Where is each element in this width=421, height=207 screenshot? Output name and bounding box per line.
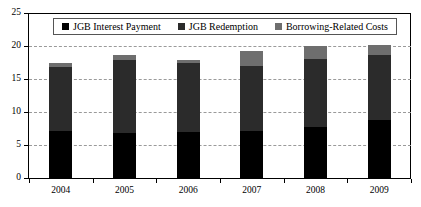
legend-swatch-borrowing-icon <box>275 23 282 30</box>
legend-label-borrowing: Borrowing-Related Costs <box>286 22 388 32</box>
y-tick-mark <box>24 79 29 80</box>
gridline <box>29 46 411 47</box>
y-tick-mark <box>24 46 29 47</box>
y-axis-line <box>28 13 29 179</box>
x-tick-label-2007: 2007 <box>222 186 282 196</box>
bar-2004 <box>49 63 72 178</box>
bar-2009 <box>368 45 391 178</box>
legend-entry-redemption: JGB Redemption <box>178 22 258 32</box>
y-tick-label: 20 <box>0 41 21 51</box>
bar-segment-interest-2004 <box>49 131 72 178</box>
bar-2006 <box>177 60 200 178</box>
bar-segment-borrowing-2007 <box>240 51 263 66</box>
gridline <box>29 79 411 80</box>
y-tick-mark <box>24 13 29 14</box>
x-tick-mark <box>220 179 221 183</box>
legend-label-redemption: JGB Redemption <box>189 22 258 32</box>
stacked-bar-chart: 0510152025 200420052006200720082009 JGB … <box>0 0 421 207</box>
bar-segment-redemption-2007 <box>240 66 263 131</box>
x-tick-mark <box>411 179 412 183</box>
x-tick-label-2005: 2005 <box>95 186 155 196</box>
x-tick-label-2009: 2009 <box>349 186 409 196</box>
legend-swatch-interest-icon <box>62 23 69 30</box>
y-tick-mark <box>24 112 29 113</box>
gridline <box>29 145 411 146</box>
x-tick-mark <box>93 179 94 183</box>
x-tick-mark <box>347 179 348 183</box>
chart-legend: JGB Interest Payment JGB Redemption Borr… <box>53 18 397 35</box>
legend-swatch-redemption-icon <box>178 23 185 30</box>
bar-segment-redemption-2008 <box>304 59 327 126</box>
bar-2008 <box>304 46 327 178</box>
x-tick-mark <box>29 179 30 183</box>
bar-2007 <box>240 51 263 178</box>
bar-segment-interest-2008 <box>304 127 327 178</box>
legend-entry-interest: JGB Interest Payment <box>62 22 161 32</box>
x-tick-mark <box>284 179 285 183</box>
legend-label-interest: JGB Interest Payment <box>73 22 161 32</box>
y-tick-label: 25 <box>0 8 21 18</box>
bar-segment-interest-2006 <box>177 132 200 178</box>
y-tick-label: 10 <box>0 107 21 117</box>
legend-entry-borrowing: Borrowing-Related Costs <box>275 22 388 32</box>
bar-segment-interest-2005 <box>113 133 136 178</box>
gridline <box>29 112 411 113</box>
y-tick-label: 0 <box>0 173 21 183</box>
y-tick-mark <box>24 145 29 146</box>
bar-segment-interest-2009 <box>368 120 391 178</box>
x-tick-mark <box>156 179 157 183</box>
x-tick-label-2008: 2008 <box>286 186 346 196</box>
x-tick-label-2006: 2006 <box>158 186 218 196</box>
bar-segment-borrowing-2009 <box>368 45 391 55</box>
bar-segment-redemption-2009 <box>368 55 391 120</box>
bar-segment-borrowing-2008 <box>304 46 327 59</box>
bar-segment-redemption-2006 <box>177 63 200 133</box>
bar-segment-interest-2007 <box>240 131 263 178</box>
bar-segment-redemption-2005 <box>113 60 136 133</box>
y-tick-label: 15 <box>0 74 21 84</box>
bar-2005 <box>113 55 136 178</box>
bar-segment-redemption-2004 <box>49 67 72 131</box>
x-tick-label-2004: 2004 <box>31 186 91 196</box>
plot-area <box>28 13 411 179</box>
y-tick-label: 5 <box>0 140 21 150</box>
